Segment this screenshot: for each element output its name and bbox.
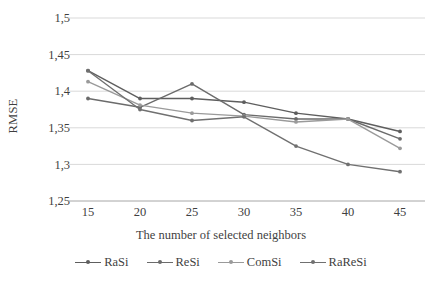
legend-item-resi[interactable]: ReSi: [147, 255, 200, 270]
legend-item-raresi[interactable]: RaReSi: [300, 255, 367, 270]
legend-item-comsi[interactable]: ComSi: [218, 255, 282, 270]
legend-label: RaReSi: [329, 255, 367, 270]
x-axis-title: The number of selected neighbors: [0, 228, 442, 243]
chart-legend: RaSiReSiComSiRaReSi: [0, 255, 442, 270]
x-tick-label: 30: [224, 206, 264, 219]
x-tick-label: 25: [172, 206, 212, 219]
legend-label: RaSi: [104, 255, 128, 270]
legend-marker-icon: [147, 258, 173, 267]
x-tick-label: 40: [328, 206, 368, 219]
x-axis-tick-labels: 15 20 25 30 35 40 45: [0, 0, 442, 287]
legend-item-rasi[interactable]: RaSi: [75, 255, 128, 270]
legend-label: ReSi: [176, 255, 200, 270]
legend-marker-icon: [218, 258, 244, 267]
legend-marker-icon: [300, 258, 326, 267]
x-tick-label: 20: [120, 206, 160, 219]
legend-marker-icon: [75, 258, 101, 267]
x-tick-label: 15: [68, 206, 108, 219]
x-tick-label: 35: [276, 206, 316, 219]
x-tick-label: 45: [380, 206, 420, 219]
legend-label: ComSi: [247, 255, 282, 270]
rmse-line-chart: RMSE 1,5 1,45 1,4 1,35 1,3 1,25 15 20 25…: [0, 0, 442, 287]
